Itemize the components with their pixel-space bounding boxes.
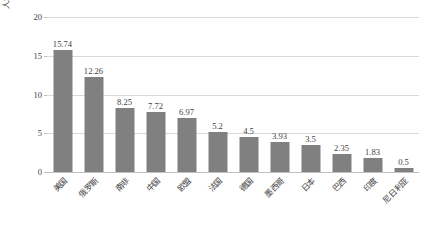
y-axis-title: 人均二氧化碳排放量（吨）: [0, 0, 14, 36]
bar-series: 15.7412.268.257.726.975.24.53.933.52.351…: [47, 17, 419, 172]
bar-value-label: 3.5: [305, 134, 316, 144]
bar-value-label: 3.93: [272, 131, 287, 141]
x-axis-label-slot: 巴西: [326, 174, 357, 224]
x-axis-category-label: 中国: [144, 176, 162, 194]
bar-slot: 12.26: [78, 17, 109, 172]
y-axis-tick-label: 5: [38, 128, 42, 138]
x-axis-label-slot: 俄罗斯: [78, 174, 109, 224]
x-axis-category-label: 日本: [299, 176, 317, 194]
bar[interactable]: [239, 137, 258, 172]
bar-value-label: 5.2: [212, 121, 223, 131]
plot-area: 05101520 15.7412.268.257.726.975.24.53.9…: [47, 17, 419, 172]
x-axis-label-slot: 德国: [233, 174, 264, 224]
x-axis-category-label: 德国: [237, 176, 255, 194]
bar[interactable]: [394, 168, 413, 172]
bar[interactable]: [208, 132, 227, 172]
y-axis-tick-label: 15: [33, 51, 42, 61]
y-axis-tick-label: 10: [33, 90, 42, 100]
x-axis-label-slot: 欧盟: [171, 174, 202, 224]
bar-value-label: 1.83: [365, 147, 380, 157]
bar-slot: 2.35: [326, 17, 357, 172]
y-axis-tick-mark: [44, 172, 47, 173]
x-axis-label-slot: 墨西哥: [264, 174, 295, 224]
bar[interactable]: [301, 145, 320, 172]
bar-value-label: 0.5: [398, 157, 409, 167]
bar-value-label: 12.26: [84, 66, 103, 76]
bar-slot: 8.25: [109, 17, 140, 172]
x-axis-category-label: 欧盟: [175, 176, 193, 194]
x-axis-category-label: 美国: [51, 176, 69, 194]
x-axis-category-label: 俄罗斯: [77, 176, 101, 200]
x-axis-category-label: 南非: [113, 176, 131, 194]
x-axis-category-label: 墨西哥: [263, 176, 287, 200]
bar-slot: 15.74: [47, 17, 78, 172]
bar-slot: 1.83: [357, 17, 388, 172]
bar-value-label: 4.5: [243, 126, 254, 136]
bar-slot: 5.2: [202, 17, 233, 172]
x-axis-label-slot: 法国: [202, 174, 233, 224]
bar-slot: 0.5: [388, 17, 419, 172]
x-axis-label-slot: 尼日利亚: [388, 174, 419, 224]
x-axis-label-slot: 日本: [295, 174, 326, 224]
bar-value-label: 15.74: [53, 39, 72, 49]
bar[interactable]: [115, 108, 134, 172]
x-axis-label-slot: 美国: [47, 174, 78, 224]
bar[interactable]: [146, 112, 165, 172]
bar[interactable]: [270, 142, 289, 172]
x-axis-category-label: 法国: [206, 176, 224, 194]
bar[interactable]: [332, 154, 351, 172]
bar-slot: 4.5: [233, 17, 264, 172]
y-axis-tick-label: 20: [33, 12, 42, 22]
bar[interactable]: [53, 50, 72, 172]
x-axis-label-slot: 中国: [140, 174, 171, 224]
gridline: [47, 172, 419, 173]
y-axis-title-text: 人均二氧化碳排放量（吨）: [0, 0, 14, 36]
x-axis-label-slot: 南非: [109, 174, 140, 224]
bar[interactable]: [177, 118, 196, 172]
x-axis-category-label: 巴西: [330, 176, 348, 194]
bar[interactable]: [363, 158, 382, 172]
bar-slot: 7.72: [140, 17, 171, 172]
bar-value-label: 7.72: [148, 101, 163, 111]
bar-slot: 3.5: [295, 17, 326, 172]
bar-slot: 3.93: [264, 17, 295, 172]
x-axis-category-label: 印度: [361, 176, 379, 194]
bar-value-label: 6.97: [179, 107, 194, 117]
bar-slot: 6.97: [171, 17, 202, 172]
bar-value-label: 2.35: [334, 143, 349, 153]
bar-chart: 人均二氧化碳排放量（吨） 05101520 15.7412.268.257.72…: [0, 0, 430, 225]
bar-value-label: 8.25: [117, 97, 132, 107]
x-axis-category-labels: 美国俄罗斯南非中国欧盟法国德国墨西哥日本巴西印度尼日利亚: [47, 174, 419, 224]
bar[interactable]: [84, 77, 103, 172]
y-axis-tick-label: 0: [38, 167, 42, 177]
